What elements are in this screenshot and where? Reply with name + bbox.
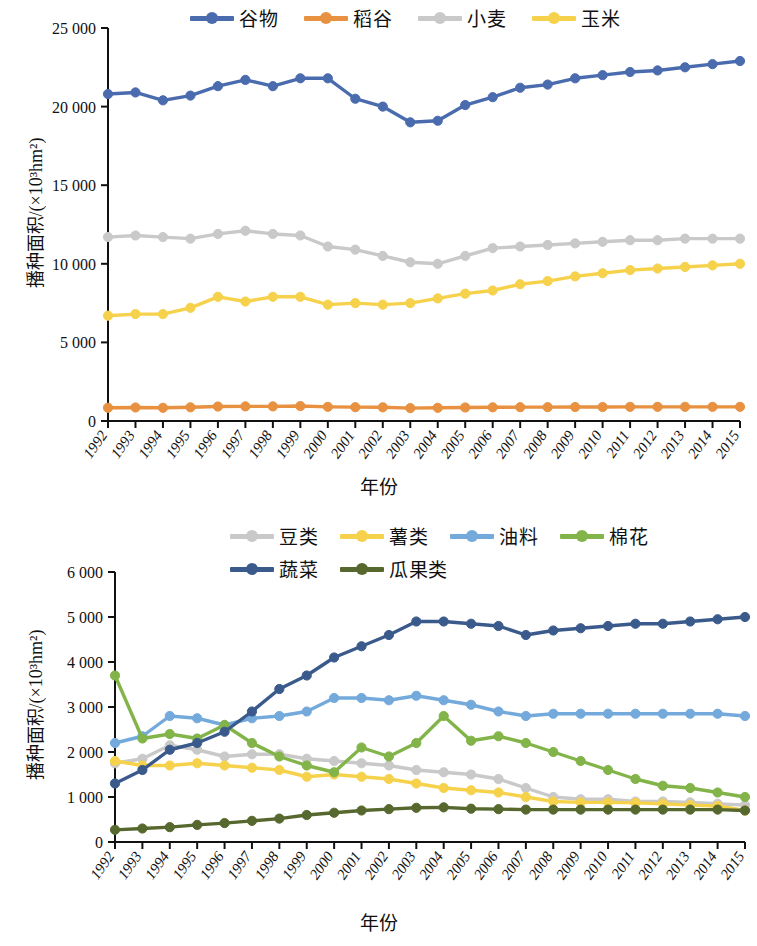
data-point: [268, 292, 277, 301]
x-tick-label: 2000: [306, 848, 337, 882]
data-point: [131, 403, 140, 412]
data-point: [296, 74, 305, 83]
data-point: [268, 229, 277, 238]
data-point: [110, 756, 119, 765]
data-point: [138, 824, 147, 833]
data-point: [603, 709, 612, 718]
series-稻谷: [103, 401, 744, 412]
data-point: [433, 294, 442, 303]
data-point: [461, 289, 470, 298]
data-point: [275, 752, 284, 761]
data-point: [384, 761, 393, 770]
data-point: [296, 401, 305, 410]
data-point: [543, 240, 552, 249]
data-point: [165, 711, 174, 720]
series-豆类: [110, 741, 749, 810]
data-point: [323, 74, 332, 83]
data-point: [247, 707, 256, 716]
data-point: [268, 82, 277, 91]
x-tick-label: 1992: [87, 848, 118, 882]
data-point: [521, 792, 530, 801]
data-point: [110, 738, 119, 747]
data-point: [439, 803, 448, 812]
data-point: [461, 100, 470, 109]
data-point: [466, 700, 475, 709]
data-point: [625, 402, 634, 411]
data-point: [351, 299, 360, 308]
data-point: [103, 403, 112, 412]
data-point: [220, 819, 229, 828]
series-谷物: [103, 56, 744, 127]
data-point: [330, 768, 339, 777]
data-point: [323, 402, 332, 411]
data-point: [598, 71, 607, 80]
data-point: [488, 243, 497, 252]
data-point: [186, 234, 195, 243]
data-point: [412, 765, 421, 774]
x-tick-label: 2001: [327, 428, 357, 462]
data-point: [351, 403, 360, 412]
data-point: [186, 91, 195, 100]
x-axis-label-top: 年份: [0, 472, 757, 499]
data-point: [378, 251, 387, 260]
data-point: [193, 738, 202, 747]
data-point: [576, 709, 585, 718]
data-point: [521, 738, 530, 747]
data-point: [131, 310, 140, 319]
data-point: [713, 788, 722, 797]
data-point: [740, 792, 749, 801]
data-point: [549, 805, 558, 814]
data-point: [735, 234, 744, 243]
data-point: [138, 734, 147, 743]
data-point: [625, 236, 634, 245]
svg-text:0: 0: [95, 834, 103, 851]
x-tick-label: 2013: [662, 849, 692, 883]
data-point: [158, 96, 167, 105]
data-point: [631, 774, 640, 783]
x-tick-label: 1996: [190, 427, 221, 461]
axes: [108, 28, 740, 421]
x-tick-label: 1993: [115, 849, 145, 883]
data-point: [686, 783, 695, 792]
data-point: [357, 772, 366, 781]
x-axis-label-bottom: 年份: [0, 908, 757, 935]
data-point: [433, 403, 442, 412]
y-axis-ticks: 05 00010 00015 00020 00025 000: [52, 20, 108, 430]
data-point: [357, 693, 366, 702]
x-tick-label: 2014: [690, 848, 721, 882]
x-tick-label: 2013: [657, 428, 687, 462]
data-point: [543, 403, 552, 412]
data-point: [138, 765, 147, 774]
x-tick-label: 1995: [163, 427, 194, 461]
svg-text:4 000: 4 000: [67, 654, 103, 671]
data-point: [543, 80, 552, 89]
data-point: [439, 783, 448, 792]
data-point: [494, 805, 503, 814]
data-point: [494, 774, 503, 783]
data-point: [625, 265, 634, 274]
data-point: [357, 743, 366, 752]
data-point: [598, 402, 607, 411]
x-tick-label: 2006: [471, 848, 502, 882]
svg-text:10 000: 10 000: [52, 256, 96, 273]
data-point: [165, 823, 174, 832]
data-point: [351, 245, 360, 254]
data-point: [740, 806, 749, 815]
data-point: [603, 621, 612, 630]
x-tick-label: 1996: [197, 848, 228, 882]
data-point: [378, 300, 387, 309]
data-point: [406, 404, 415, 413]
data-point: [323, 300, 332, 309]
data-point: [466, 619, 475, 628]
data-point: [713, 709, 722, 718]
data-point: [193, 759, 202, 768]
x-tick-label: 1999: [279, 848, 310, 882]
x-tick-label: 2007: [492, 426, 523, 461]
data-point: [384, 630, 393, 639]
data-point: [631, 805, 640, 814]
data-point: [653, 264, 662, 273]
data-point: [735, 56, 744, 65]
x-tick-label: 2006: [465, 427, 496, 461]
data-point: [241, 402, 250, 411]
plot-area-top: 05 00010 00015 00020 00025 0001992199319…: [0, 0, 757, 500]
